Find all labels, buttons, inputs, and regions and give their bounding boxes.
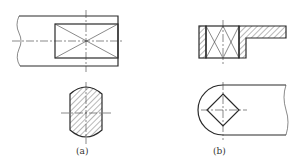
figure-a-section xyxy=(61,82,111,144)
figure-b-end-view xyxy=(198,82,288,140)
figure-a-top-view xyxy=(12,10,124,72)
figure-b-label: (b) xyxy=(213,146,226,156)
figure-b-top-view xyxy=(199,20,286,64)
figure-a-label: (a) xyxy=(76,146,88,156)
technical-drawing xyxy=(0,0,302,164)
